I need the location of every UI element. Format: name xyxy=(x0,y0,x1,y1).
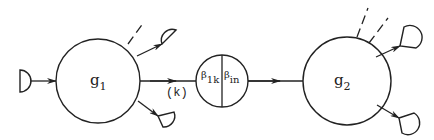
node-coupler: β1k βin xyxy=(196,55,248,107)
source-left-icon xyxy=(20,70,31,92)
edge-g1-to-lower-sink xyxy=(138,101,158,116)
g2-dashed-stub-1 xyxy=(357,8,368,37)
edge-label-k: (k) xyxy=(166,86,188,100)
g1-dashed-stub xyxy=(128,22,144,44)
node-g1: g1 xyxy=(56,39,140,123)
sink-g1-lower-icon xyxy=(158,112,175,127)
g2-dashed-stub-2 xyxy=(369,18,388,43)
sink-g2-lower-icon xyxy=(399,113,420,135)
edge-g2-to-lower-sink xyxy=(377,105,399,118)
sink-g2-upper-icon xyxy=(400,25,422,48)
node-g2: g2 xyxy=(303,37,391,125)
diagram-canvas: g1 (k) β1k βin g2 xyxy=(0,0,434,140)
edge-g1-to-upper-sink xyxy=(137,44,162,56)
sink-g1-upper-icon xyxy=(161,29,176,44)
